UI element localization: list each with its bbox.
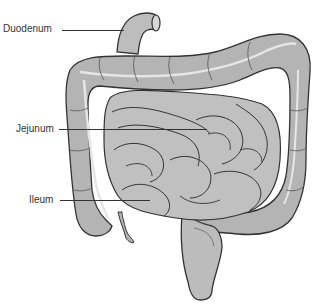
leader-line-ileum	[60, 200, 150, 201]
duodenum-structure	[117, 13, 160, 54]
leader-line-duodenum	[62, 30, 124, 31]
label-jejunum: Jejunum	[16, 123, 54, 135]
label-duodenum: Duodenum	[3, 23, 52, 35]
intestine-illustration	[0, 0, 316, 305]
label-ileum: Ileum	[29, 194, 53, 206]
leader-line-jejunum	[59, 129, 207, 130]
intestine-diagram: Duodenum Jejunum Ileum	[0, 0, 316, 305]
appendix	[118, 212, 134, 243]
